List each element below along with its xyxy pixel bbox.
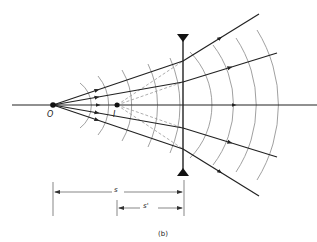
image-label: I: [113, 110, 115, 119]
object-label: O: [47, 110, 53, 119]
dimension-lines: [53, 180, 184, 216]
figure-caption: (b): [158, 230, 168, 238]
image-distance-label: s': [143, 202, 149, 210]
object-distance-label: s: [114, 186, 118, 194]
optics-diagram: [0, 0, 317, 242]
object-point: [50, 102, 56, 108]
image-point: [115, 103, 120, 108]
